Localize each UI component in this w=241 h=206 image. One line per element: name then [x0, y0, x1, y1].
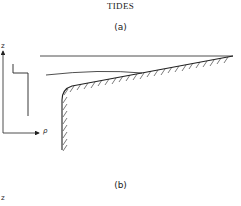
- seabed-boundary: [62, 56, 233, 151]
- wall-hatching: [63, 97, 67, 151]
- diagram-panel-a: [0, 0, 241, 206]
- slope-hatching: [64, 57, 228, 95]
- tide-profile-curve: [46, 71, 142, 75]
- axes: [3, 51, 39, 133]
- rho-axis-label: ρ: [43, 127, 47, 135]
- z-axis-label: z: [1, 42, 5, 50]
- panel-b-label: (b): [0, 180, 241, 190]
- panel-b-z-axis-label: z: [1, 194, 5, 202]
- depth-profile-line: [13, 64, 28, 116]
